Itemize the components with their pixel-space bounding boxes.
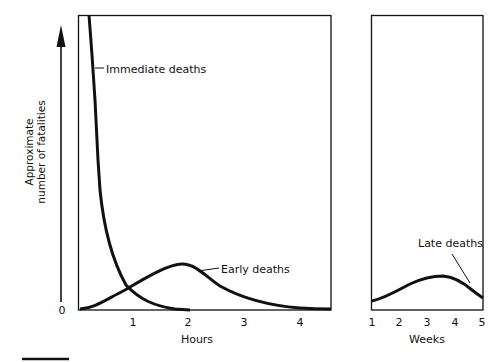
weeks-tick-5: 5	[479, 316, 486, 329]
weeks-tick-4: 4	[452, 316, 459, 329]
hours-tick-1: 1	[130, 316, 137, 329]
y-axis-label-line2: number of fatalities	[35, 100, 47, 203]
early-leader-line	[198, 268, 219, 271]
hours-tick-2: 2	[185, 316, 192, 329]
y-axis-arrow	[57, 25, 66, 302]
y-zero-tick: 0	[59, 304, 66, 317]
weeks-tick-1: 1	[369, 316, 376, 329]
fatalities-chart: Approximate number of fatalities 0 Immed…	[0, 0, 504, 362]
immediate-deaths-label: Immediate deaths	[106, 63, 207, 76]
hours-tick-4: 4	[297, 316, 304, 329]
weeks-axis-label: Weeks	[409, 333, 445, 346]
y-axis-label-line1: Approximate	[23, 118, 35, 185]
late-deaths-curve	[372, 276, 483, 301]
late-deaths-label: Late deaths	[418, 237, 483, 250]
early-deaths-label: Early deaths	[221, 263, 290, 276]
hours-axis-label: Hours	[181, 333, 213, 346]
weeks-panel-frame	[372, 16, 484, 311]
hours-tick-3: 3	[241, 316, 248, 329]
weeks-tick-2: 2	[396, 316, 403, 329]
weeks-tick-3: 3	[424, 316, 431, 329]
